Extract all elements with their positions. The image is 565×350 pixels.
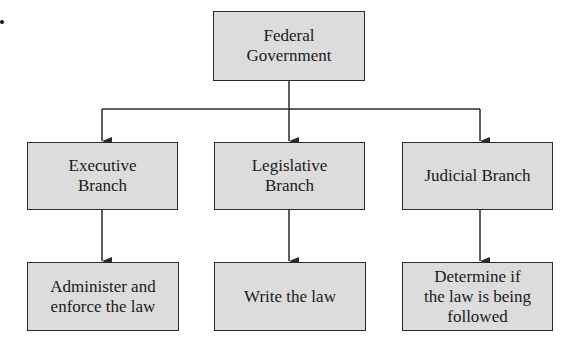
function-node-label: Write the law (244, 287, 336, 307)
branch-node-label: Executive Branch (69, 156, 137, 196)
function-node-judicial: Determine if the law is being followed (402, 262, 553, 331)
branch-node-label: Legislative Branch (252, 156, 328, 196)
branch-node-legislative: Legislative Branch (214, 142, 365, 210)
function-node-executive: Administer and enforce the law (27, 262, 179, 331)
function-node-label: Determine if the law is being followed (424, 267, 531, 327)
branch-node-judicial: Judicial Branch (402, 142, 553, 210)
function-node-label: Administer and enforce the law (50, 277, 155, 317)
root-node-label: Federal Government (247, 26, 332, 66)
branch-node-executive: Executive Branch (27, 142, 178, 210)
branch-node-label: Judicial Branch (424, 166, 530, 186)
root-node-federal-government: Federal Government (213, 11, 365, 81)
function-node-legislative: Write the law (214, 262, 366, 331)
